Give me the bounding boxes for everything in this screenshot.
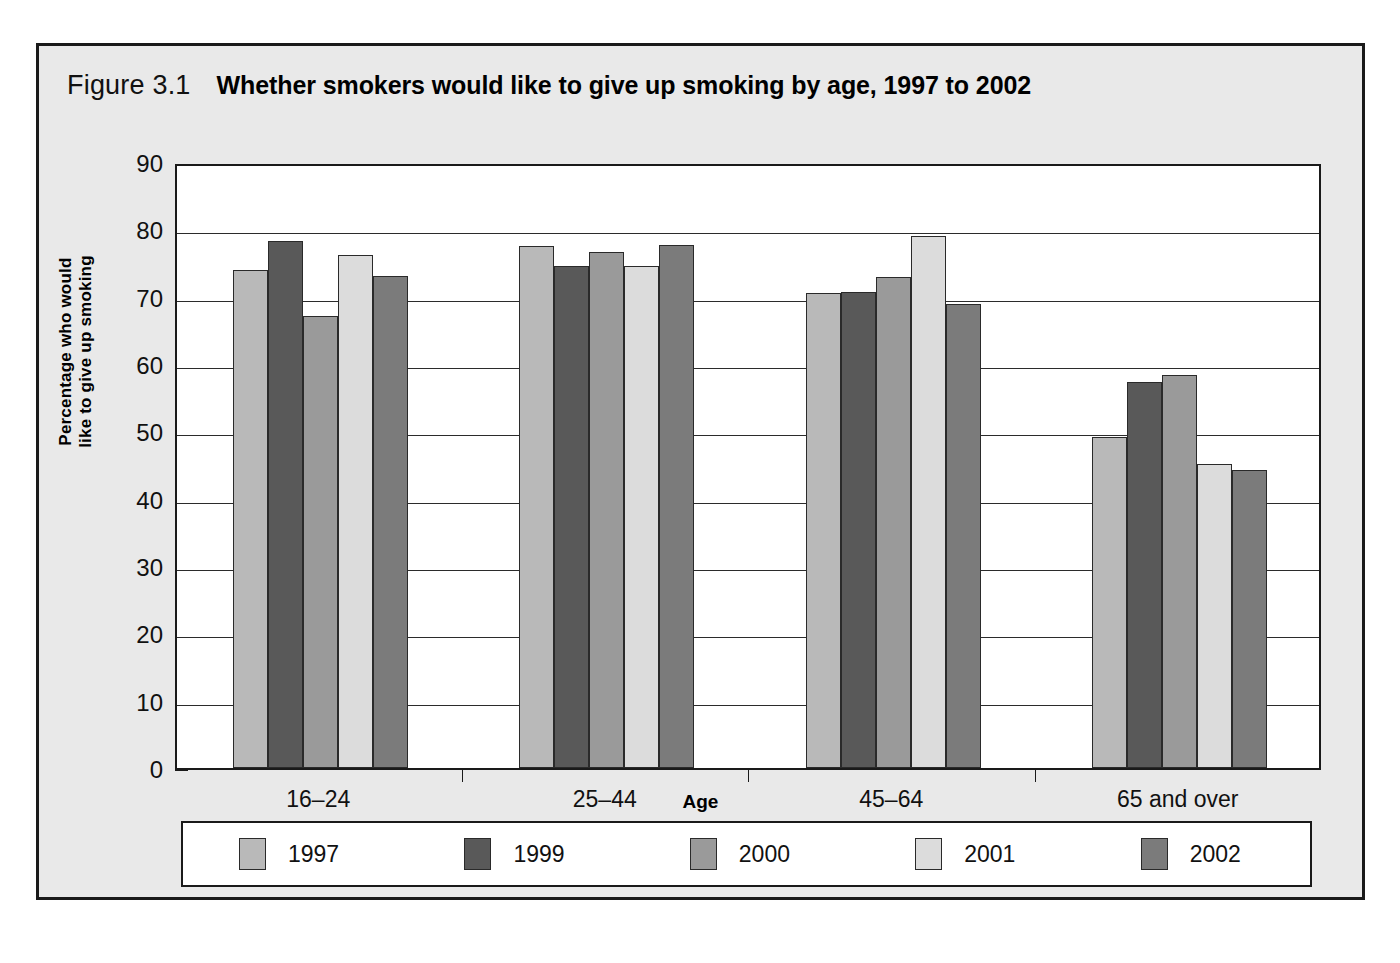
bar-2002-25–44	[659, 245, 694, 768]
x-tick-mark	[462, 770, 463, 782]
y-tick-label: 90	[136, 150, 163, 178]
bar-1997-16–24	[233, 270, 268, 768]
bar-2002-65-and-over	[1232, 470, 1267, 768]
bar-2000-65-and-over	[1162, 375, 1197, 768]
legend-label: 1997	[288, 841, 339, 868]
gridline	[177, 233, 1319, 234]
bar-2002-45–64	[946, 304, 981, 768]
legend-swatch-icon	[464, 838, 491, 870]
y-tick-mark	[175, 770, 188, 771]
bar-1997-25–44	[519, 246, 554, 768]
chart-canvas: 0102030405060708090 Percentage who would…	[39, 46, 1362, 897]
bar-1999-16–24	[268, 241, 303, 768]
y-axis: 0102030405060708090	[105, 164, 163, 770]
figure-panel: Figure 3.1 Whether smokers would like to…	[36, 43, 1365, 900]
legend-item-2000: 2000	[634, 838, 859, 870]
bar-1997-65-and-over	[1092, 437, 1127, 768]
y-tick-label: 40	[136, 487, 163, 515]
legend-label: 1999	[513, 841, 564, 868]
legend-item-2002: 2002	[1085, 838, 1310, 870]
legend-swatch-icon	[915, 838, 942, 870]
y-axis-title: Percentage who would like to give up smo…	[56, 207, 95, 497]
legend-swatch-icon	[690, 838, 717, 870]
x-tick-mark	[748, 770, 749, 782]
y-tick-label: 20	[136, 621, 163, 649]
legend-item-2001: 2001	[859, 838, 1084, 870]
bar-1999-45–64	[841, 292, 876, 768]
bar-1999-65-and-over	[1127, 382, 1162, 768]
bar-2000-45–64	[876, 277, 911, 768]
legend-swatch-icon	[1141, 838, 1168, 870]
y-axis-title-line-1: Percentage who would	[56, 207, 76, 497]
legend-label: 2002	[1190, 841, 1241, 868]
bar-2001-65-and-over	[1197, 464, 1232, 768]
y-tick-label: 0	[150, 756, 163, 784]
x-tick-mark	[1035, 770, 1036, 782]
plot-area	[175, 164, 1321, 770]
bar-2000-16–24	[303, 316, 338, 768]
y-tick-label: 70	[136, 285, 163, 313]
legend-item-1997: 1997	[183, 838, 408, 870]
y-tick-label: 60	[136, 352, 163, 380]
y-tick-label: 50	[136, 419, 163, 447]
bar-2001-25–44	[624, 266, 659, 768]
legend-label: 2001	[964, 841, 1015, 868]
y-axis-title-line-2: like to give up smoking	[76, 207, 96, 497]
bar-2001-45–64	[911, 236, 946, 768]
chart-legend: 19971999200020012002	[181, 821, 1312, 887]
bar-1997-45–64	[806, 293, 841, 768]
y-tick-label: 80	[136, 217, 163, 245]
y-tick-label: 30	[136, 554, 163, 582]
x-axis-title: Age	[39, 791, 1362, 813]
legend-item-1999: 1999	[408, 838, 633, 870]
bar-1999-25–44	[554, 266, 589, 768]
legend-label: 2000	[739, 841, 790, 868]
bar-2001-16–24	[338, 255, 373, 768]
bar-2000-25–44	[589, 252, 624, 768]
legend-swatch-icon	[239, 838, 266, 870]
y-tick-label: 10	[136, 689, 163, 717]
bar-2002-16–24	[373, 276, 408, 768]
